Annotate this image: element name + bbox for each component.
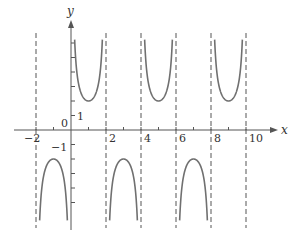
origin-label: 0: [61, 117, 68, 130]
cosecant-graph: xy−22468101−10: [0, 0, 297, 236]
y-tick-label: −1: [51, 141, 67, 154]
x-axis-label: x: [281, 123, 288, 137]
curve-branch: [145, 40, 173, 101]
curve-branch: [75, 40, 103, 101]
x-tick-label: 10: [249, 132, 263, 145]
y-tick-label: 1: [77, 110, 84, 123]
x-tick-label: 4: [144, 132, 151, 145]
x-tick-label: −2: [24, 132, 40, 145]
y-axis-label: y: [66, 4, 74, 18]
x-tick-label: 2: [109, 132, 116, 145]
y-axis-arrow-icon: [68, 20, 74, 28]
curve-branch: [215, 40, 243, 101]
x-tick-label: 8: [214, 132, 221, 145]
curve-branch: [40, 159, 68, 220]
curve-branch: [110, 159, 138, 220]
x-tick-label: 6: [179, 132, 186, 145]
x-axis-arrow-icon: [270, 127, 278, 133]
curve-branch: [180, 159, 208, 220]
tick-labels: xy−22468101−10: [24, 4, 288, 154]
